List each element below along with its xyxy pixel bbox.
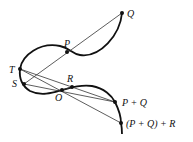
label-T: T — [9, 64, 16, 75]
elliptic-curve-diagram: QPTSORP + Q(P + Q) + R — [0, 0, 193, 142]
point-labels: QPTSORP + Q(P + Q) + R — [9, 8, 175, 130]
point-PQ — [113, 100, 117, 104]
point-P — [65, 50, 69, 54]
label-Q: Q — [127, 8, 135, 19]
point-PQR — [119, 121, 123, 125]
label-P: P — [63, 38, 70, 49]
label-O: O — [55, 92, 62, 103]
point-Q — [120, 11, 124, 15]
label-PQ: P + Q — [121, 97, 148, 108]
diagram-canvas: QPTSORP + Q(P + Q) + R — [0, 0, 193, 142]
point-R — [70, 85, 74, 89]
label-R: R — [66, 73, 73, 84]
point-S — [22, 82, 26, 86]
label-PQR: (P + Q) + R — [126, 118, 175, 130]
label-S: S — [12, 78, 17, 89]
secant-lines — [20, 13, 122, 123]
point-T — [18, 67, 22, 71]
curve-points — [18, 11, 124, 125]
